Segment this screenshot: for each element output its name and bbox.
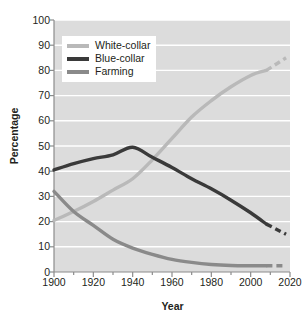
chart-legend: White-collarBlue-collarFarming bbox=[62, 36, 156, 82]
legend-swatch-icon bbox=[67, 70, 89, 74]
x-tick-label: 2000 bbox=[231, 277, 271, 288]
legend-item: Blue-collar bbox=[67, 52, 150, 65]
y-axis-title: Percentage bbox=[8, 91, 20, 181]
x-tick-label: 1940 bbox=[113, 277, 153, 288]
legend-swatch-icon bbox=[67, 44, 89, 48]
x-tick-label: 1920 bbox=[73, 277, 113, 288]
x-tick-label: 1900 bbox=[34, 277, 74, 288]
legend-item: White-collar bbox=[67, 39, 150, 52]
chart-figure: 0102030405060708090100 19001920194019601… bbox=[0, 0, 303, 319]
x-axis-title: Year bbox=[54, 300, 291, 312]
x-tick-label: 1960 bbox=[152, 277, 192, 288]
legend-item: Farming bbox=[67, 65, 150, 78]
legend-label: Farming bbox=[95, 66, 134, 77]
legend-swatch-icon bbox=[67, 57, 89, 61]
legend-label: White-collar bbox=[95, 40, 150, 51]
x-tick-label: 2020 bbox=[270, 277, 303, 288]
legend-label: Blue-collar bbox=[95, 53, 145, 64]
x-tick-label: 1980 bbox=[191, 277, 231, 288]
